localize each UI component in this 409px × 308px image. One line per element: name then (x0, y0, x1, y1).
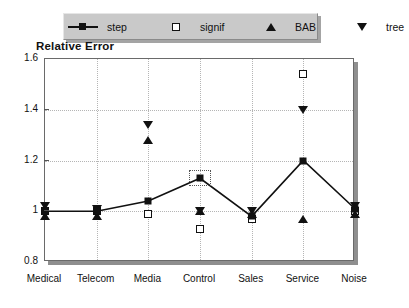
triangle-down-marker-icon (143, 121, 153, 129)
legend-label-bab: BAB (288, 21, 345, 33)
x-axis-label-noise: Noise (341, 273, 367, 284)
y-axis-tick-mark (44, 109, 49, 110)
triangle-up-icon (254, 23, 288, 31)
selected-point-box[interactable] (189, 170, 211, 186)
legend-label-step: step (100, 21, 159, 33)
x-axis-label-media: Media (134, 273, 161, 284)
open-square-marker-icon (196, 225, 204, 233)
chart-legend: step signif BAB tree (63, 13, 318, 40)
y-axis-tick-label: 1.4 (8, 103, 38, 114)
x-axis-label-sales: Sales (238, 273, 263, 284)
y-axis-tick-mark (44, 210, 49, 211)
filled-square-marker-icon (42, 208, 49, 215)
x-axis-label-medical: Medical (27, 273, 61, 284)
y-axis-tick-mark (44, 160, 49, 161)
open-square-marker-icon (144, 210, 152, 218)
filled-square-marker-icon (145, 198, 152, 205)
triangle-up-marker-icon (143, 136, 153, 144)
y-axis-tick-label: 1.2 (8, 154, 38, 165)
chart-title: Relative Error (36, 40, 114, 52)
x-axis-label-control: Control (183, 273, 215, 284)
x-axis-label-telecom: Telecom (77, 273, 114, 284)
line-with-filled-square-icon (66, 21, 100, 32)
legend-label-tree: tree (379, 21, 409, 33)
filled-square-marker-icon (93, 208, 100, 215)
filled-square-marker-icon (248, 213, 255, 220)
open-square-marker-icon (299, 70, 307, 78)
legend-item-signif: signif (159, 14, 254, 39)
y-axis-tick-label: 0.8 (8, 255, 38, 266)
legend-item-bab: BAB (254, 14, 345, 39)
y-axis-tick-label: 1.6 (8, 52, 38, 63)
triangle-down-marker-icon (298, 106, 308, 114)
x-axis-label-service: Service (286, 273, 319, 284)
legend-item-step: step (66, 14, 159, 39)
legend-item-tree: tree (345, 14, 409, 39)
y-axis-tick-label: 1 (8, 204, 38, 215)
plot-area (44, 58, 354, 261)
triangle-down-marker-icon (195, 207, 205, 215)
legend-label-signif: signif (193, 21, 254, 33)
filled-square-marker-icon (300, 157, 307, 164)
triangle-down-icon (345, 23, 379, 31)
triangle-up-marker-icon (298, 215, 308, 223)
open-square-icon (159, 23, 193, 31)
filled-square-marker-icon (352, 205, 359, 212)
